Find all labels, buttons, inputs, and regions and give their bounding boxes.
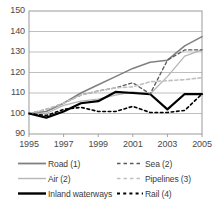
- legend-column-left: Road (1) Air (2) Inland waterways: [18, 156, 112, 201]
- legend-swatch-sea: [115, 158, 143, 169]
- x-tick-label: 2005: [185, 139, 216, 149]
- series-line-sea-2: [29, 50, 202, 114]
- series-line-air-2: [29, 50, 202, 114]
- x-tick-label: 1995: [12, 139, 46, 149]
- legend-swatch-air: [18, 173, 46, 184]
- legend-item-sea: Sea (2): [115, 156, 191, 171]
- y-tick-label: 120: [0, 67, 25, 77]
- legend-item-road: Road (1): [18, 156, 112, 171]
- y-tick-label: 130: [0, 46, 25, 56]
- legend-label-rail: Rail (4): [145, 189, 172, 199]
- legend-swatch-rail: [115, 188, 143, 199]
- legend-item-pipelines: Pipelines (3): [115, 171, 191, 186]
- y-tick-label: 110: [0, 87, 25, 97]
- x-tick-label: 1997: [47, 139, 81, 149]
- legend-swatch-inland-waterways: [18, 188, 46, 199]
- legend-label-sea: Sea (2): [145, 159, 172, 169]
- legend-item-rail: Rail (4): [115, 186, 191, 201]
- legend-label-road: Road (1): [48, 159, 80, 169]
- legend-swatch-road: [18, 158, 46, 169]
- legend-item-air: Air (2): [18, 171, 112, 186]
- legend-label-inland-waterways: Inland waterways: [48, 189, 112, 199]
- y-tick-label: 140: [0, 26, 25, 36]
- legend-column-right: Sea (2) Pipelines (3) Rail (4): [115, 156, 191, 201]
- line-chart-figure: 15014013012011010090 1995199719992001200…: [0, 0, 216, 207]
- series-line-rail-4: [29, 94, 202, 116]
- legend-label-air: Air (2): [48, 174, 70, 184]
- x-tick-label: 2001: [116, 139, 150, 149]
- data-series-group: [29, 37, 202, 118]
- y-tick-label: 90: [0, 128, 25, 138]
- x-tick-label: 1999: [81, 139, 115, 149]
- plot-area: [0, 0, 216, 156]
- chart-legend: Road (1) Air (2) Inland waterways Se: [0, 156, 216, 207]
- x-tick-label: 2003: [150, 139, 184, 149]
- legend-label-pipelines: Pipelines (3): [145, 174, 191, 184]
- legend-item-inland-waterways: Inland waterways: [18, 186, 112, 201]
- legend-swatch-pipelines: [115, 173, 143, 184]
- y-tick-label: 100: [0, 108, 25, 118]
- y-tick-label: 150: [0, 5, 25, 15]
